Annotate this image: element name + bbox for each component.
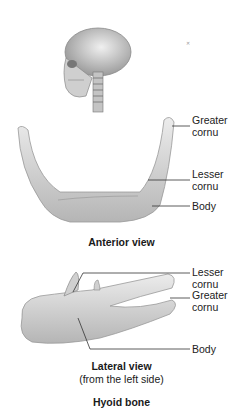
label-line: Lesser: [192, 168, 224, 180]
label-greater-cornu-anterior: Greater cornu: [192, 114, 228, 138]
hyoid-anterior-illustration: [18, 117, 174, 222]
label-lesser-cornu-lateral: Lesser cornu: [192, 266, 224, 290]
figure-title: Hyoid bone: [0, 396, 243, 408]
label-body-lateral: Body: [192, 343, 216, 355]
label-line: cornu: [192, 301, 228, 313]
caption-anterior-view: Anterior view: [0, 236, 243, 248]
skull-illustration: [64, 28, 131, 112]
label-body-anterior: Body: [192, 200, 216, 212]
label-greater-cornu-lateral: Greater cornu: [192, 289, 228, 313]
label-line: Greater: [192, 114, 228, 126]
caption-lateral-subtitle: (from the left side): [0, 373, 243, 385]
label-line: Lesser: [192, 266, 224, 278]
label-lesser-cornu-anterior: Lesser cornu: [192, 168, 224, 192]
label-line: cornu: [192, 126, 228, 138]
label-line: Greater: [192, 289, 228, 301]
caption-lateral-view: Lateral view: [0, 360, 243, 372]
label-line: cornu: [192, 180, 224, 192]
hyoid-lateral-illustration: [21, 272, 175, 343]
small-mark: ✕: [186, 40, 190, 46]
